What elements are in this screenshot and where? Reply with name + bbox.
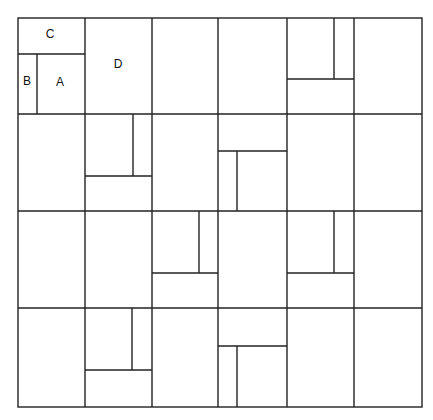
outer-frame bbox=[18, 18, 422, 407]
cell-subdivisions bbox=[18, 18, 354, 407]
region-label-c: C bbox=[46, 27, 55, 41]
column-dividers bbox=[85, 18, 354, 407]
region-label-a: A bbox=[56, 75, 64, 89]
region-labels: CBAD bbox=[23, 27, 123, 89]
row-dividers bbox=[18, 114, 422, 308]
grid-diagram: CBAD bbox=[0, 0, 433, 420]
region-label-d: D bbox=[114, 57, 123, 71]
region-label-b: B bbox=[23, 74, 31, 88]
